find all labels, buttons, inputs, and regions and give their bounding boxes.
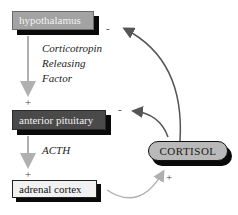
cortisol-node: CORTISOL	[148, 141, 228, 161]
anterior-pituitary-node: anterior pituitary	[12, 110, 106, 130]
adrenal-cortex-node: adrenal cortex	[12, 180, 97, 198]
crf-label: Corticotropin Releasing Factor	[42, 41, 102, 86]
pituitary-plus-sign: +	[25, 97, 31, 108]
hypothalamus-label: hypothalamus	[19, 15, 81, 26]
cortisol-label: CORTISOL	[159, 146, 216, 157]
adrenal-plus-sign: +	[25, 169, 31, 180]
adrenal-to-cortisol-arrow	[107, 172, 163, 198]
anterior-pituitary-label: anterior pituitary	[19, 115, 93, 126]
pituitary-minus-sign: -	[118, 104, 122, 115]
cortisol-to-hypothalamus-arrow	[125, 29, 180, 141]
hypothalamus-minus-sign: -	[106, 23, 110, 34]
cortisol-to-pituitary-arrow	[134, 111, 168, 137]
acth-label: ACTH	[42, 143, 70, 158]
adrenal-cortex-label: adrenal cortex	[19, 184, 82, 195]
cortisol-plus-sign: +	[166, 172, 172, 183]
hypothalamus-node: hypothalamus	[12, 11, 94, 30]
